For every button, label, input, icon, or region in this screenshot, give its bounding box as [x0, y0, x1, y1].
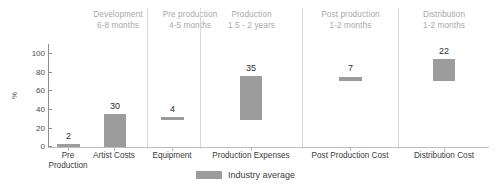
y-tick-20	[49, 128, 52, 129]
y-tick-label-20: 20	[20, 124, 45, 133]
panel-header-distribution: Distribution 1-2 months	[399, 10, 489, 31]
bar-equipment	[161, 117, 184, 120]
chart-container: Development 6-8 months Pre production 4-…	[0, 0, 497, 196]
x-label-pre-production-line2: Production	[48, 161, 87, 170]
x-label-production-expenses: Production Expenses	[200, 151, 302, 161]
x-label-equipment: Equipment	[143, 151, 201, 161]
panel-header-production-name: Production	[201, 10, 302, 21]
panel-header-postproduction: Post production 1-2 months	[303, 10, 398, 31]
panel-divider-2	[200, 8, 201, 149]
panel-header-development: Development 6-8 months	[80, 10, 156, 31]
x-label-distribution-cost: Distribution Cost	[399, 151, 489, 161]
bar-value-equipment: 4	[160, 104, 185, 114]
y-axis-line	[48, 44, 49, 147]
panel-header-postproduction-duration: 1-2 months	[303, 21, 398, 32]
x-label-artist-costs: Artist Costs	[84, 151, 144, 161]
y-tick-80	[49, 72, 52, 73]
x-label-post-production-cost: Post Production Cost	[300, 151, 400, 161]
panel-divider-3	[302, 8, 303, 149]
bar-value-post-production-cost: 7	[338, 63, 363, 73]
legend-swatch-industry-average	[196, 171, 222, 179]
bar-value-pre-production: 2	[56, 131, 81, 141]
bar-distribution-cost	[433, 59, 455, 81]
bar-value-distribution-cost: 22	[431, 46, 457, 56]
panel-header-distribution-name: Distribution	[399, 10, 489, 21]
bar-value-artist-costs: 30	[102, 101, 128, 111]
y-tick-label-0: 0	[20, 142, 45, 151]
y-tick-label-100: 100	[20, 49, 45, 58]
panel-divider-1	[147, 8, 148, 149]
panel-divider-4	[398, 8, 399, 149]
y-axis-title: %	[10, 81, 19, 111]
bar-value-production-expenses: 35	[238, 63, 264, 73]
bar-production-expenses	[240, 76, 262, 120]
y-tick-label-60: 60	[20, 86, 45, 95]
chart-legend: Industry average	[196, 170, 295, 180]
panel-header-postproduction-name: Post production	[303, 10, 398, 21]
y-tick-label-80: 80	[20, 68, 45, 77]
bar-post-production-cost	[339, 77, 362, 81]
bar-pre-production	[57, 144, 80, 147]
panel-header-development-name: Development	[80, 10, 156, 21]
bar-artist-costs	[104, 114, 126, 147]
y-tick-label-40: 40	[20, 105, 45, 114]
y-tick-60	[49, 90, 52, 91]
panel-header-development-duration: 6-8 months	[80, 21, 156, 32]
panel-header-production-duration: 1.5 - 2 years	[201, 21, 302, 32]
y-tick-100	[49, 53, 52, 54]
legend-label-industry-average: Industry average	[228, 170, 295, 180]
panel-header-production: Production 1.5 - 2 years	[201, 10, 302, 31]
y-tick-40	[49, 109, 52, 110]
panel-header-distribution-duration: 1-2 months	[399, 21, 489, 32]
x-label-pre-production-line1: Pre	[62, 151, 75, 160]
